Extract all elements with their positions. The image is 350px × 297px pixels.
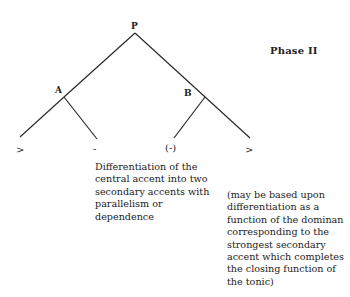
node-a-label: A <box>55 86 62 95</box>
phase-title: Phase II <box>270 45 318 56</box>
edge-a-right <box>64 97 97 139</box>
edge-p-a <box>64 33 135 97</box>
root-node-label: P <box>131 22 138 31</box>
node-b-label: B <box>184 89 192 98</box>
note-dominant-function: (may be based upon differentiation as a … <box>227 189 350 288</box>
leaf-a-left: > <box>16 145 24 155</box>
leaf-a-right: - <box>93 144 96 154</box>
note-differentiation: Differentiation of the central accent in… <box>95 161 215 223</box>
leaf-b-left: (-) <box>165 143 176 153</box>
edge-a-left <box>20 97 64 137</box>
edge-p-b <box>135 33 250 138</box>
edge-b-left <box>174 97 205 138</box>
leaf-b-right: > <box>245 145 253 155</box>
